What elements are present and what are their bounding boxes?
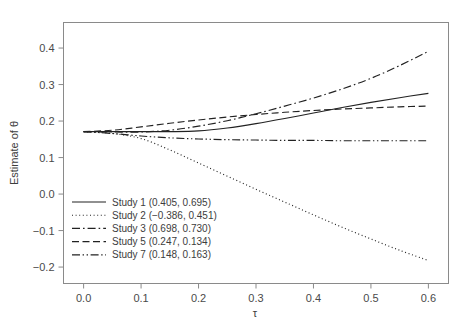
legend-label-study-5: Study 5 (0.247, 0.134) [112, 236, 211, 247]
legend-label-study-3: Study 3 (0.698, 0.730) [112, 223, 211, 234]
legend-label-study-1: Study 1 (0.405, 0.695) [112, 197, 211, 208]
y-tick-label: 0.1 [39, 152, 54, 164]
x-tick-label: 0.2 [191, 292, 206, 304]
y-tick-label: −0.1 [33, 225, 55, 237]
legend-label-study-7: Study 7 (0.148, 0.163) [112, 249, 211, 260]
x-axis-title: τ [253, 307, 258, 319]
y-tick-label: 0.2 [39, 115, 54, 127]
y-tick-label: 0.3 [39, 79, 54, 91]
chart-figure: 0.00.10.20.30.40.50.6 −0.2−0.10.00.10.20… [0, 0, 463, 327]
y-axis-title: Estimate of θ [8, 121, 20, 185]
legend-label-study-2: Study 2 (−0.386, 0.451) [112, 210, 217, 221]
y-tick-label: 0.4 [39, 42, 54, 54]
x-tick-label: 0.3 [248, 292, 263, 304]
y-tick-label: −0.2 [33, 261, 55, 273]
y-tick-label: 0.0 [39, 188, 54, 200]
x-tick-label: 0.0 [76, 292, 91, 304]
chart-background [0, 0, 463, 327]
x-tick-label: 0.4 [306, 292, 321, 304]
x-tick-label: 0.1 [133, 292, 148, 304]
x-tick-label: 0.5 [363, 292, 378, 304]
x-tick-label: 0.6 [421, 292, 436, 304]
line-chart: 0.00.10.20.30.40.50.6 −0.2−0.10.00.10.20… [0, 0, 463, 327]
